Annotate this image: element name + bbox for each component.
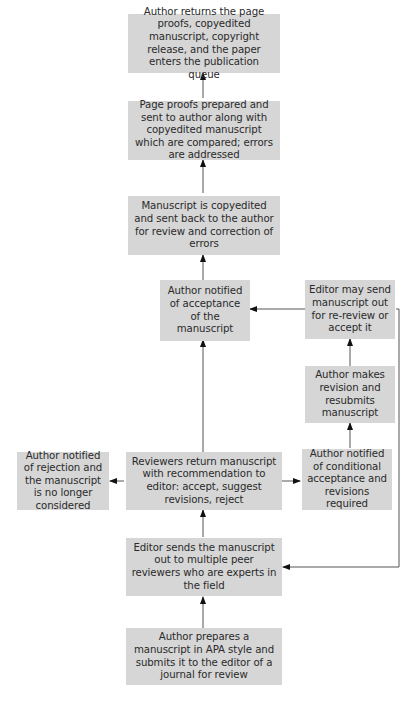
node-author-returns-proofs: Author returns the page proofs, copyedit… — [128, 14, 280, 73]
node-page-proofs-prepared: Page proofs prepared and sent to author … — [128, 101, 280, 160]
node-author-notified-conditional: Author notified of conditional acceptanc… — [302, 449, 392, 510]
node-manuscript-copyedited: Manuscript is copyedited and sent back t… — [128, 196, 280, 255]
node-author-notified-rejection: Author notified of rejection and the man… — [17, 452, 109, 510]
node-author-makes-revision: Author makes revision and resubmits manu… — [305, 366, 395, 423]
node-author-prepares-manuscript: Author prepares a manuscript in APA styl… — [126, 628, 282, 685]
node-reviewers-return-manuscript: Reviewers return manuscript with recomme… — [126, 452, 282, 510]
node-editor-sends-to-reviewers: Editor sends the manuscript out to multi… — [126, 538, 282, 596]
node-editor-may-rereview: Editor may send manuscript out for re-re… — [305, 280, 395, 339]
node-author-notified-acceptance: Author notified of acceptance of the man… — [160, 280, 250, 341]
